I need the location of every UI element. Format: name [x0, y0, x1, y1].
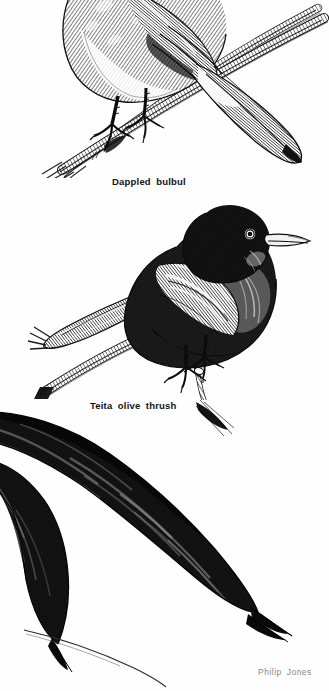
artist-credit: Philip Jones — [258, 667, 312, 677]
illustration-teita-olive-thrush — [0, 195, 329, 400]
caption-dappled-bulbul: Dappled bulbul — [112, 176, 186, 187]
longtail-streamer-filament — [24, 630, 166, 687]
illustration-page: Dappled bulbul — [0, 0, 329, 691]
bulbul-tail — [180, 50, 320, 178]
illustration-long-tailed-bird — [0, 400, 329, 691]
longtail-feather-fragment — [196, 400, 234, 436]
illustration-dappled-bulbul — [0, 0, 329, 178]
